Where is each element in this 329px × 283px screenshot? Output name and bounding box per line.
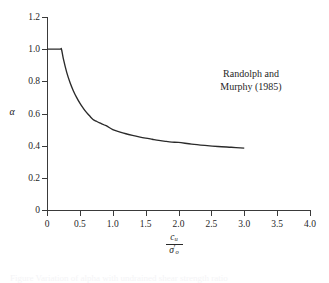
figure-container: 00.20.40.60.81.01.200.51.01.52.02.53.03.… <box>0 0 329 283</box>
series-line-randolph-murphy <box>47 48 244 148</box>
figure-caption-sliver: Figure Variation of alpha with undrained… <box>10 273 250 283</box>
plot-curve-svg <box>0 0 329 283</box>
